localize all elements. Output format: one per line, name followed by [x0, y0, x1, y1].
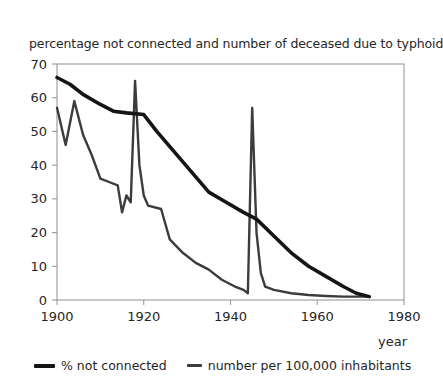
- x-tick-label: 1940: [214, 309, 247, 324]
- y-tick-label: 30: [30, 191, 47, 206]
- legend-item-deaths-per-100k: number per 100,000 inhabitants: [187, 358, 411, 373]
- data-series-group: [57, 77, 369, 296]
- series-line: [57, 81, 369, 297]
- x-axis-tick-labels: 19001920194019601980: [40, 309, 420, 324]
- series-line: [57, 77, 369, 296]
- y-tick-label: 70: [30, 57, 47, 72]
- legend-label-deaths-per-100k: number per 100,000 inhabitants: [208, 358, 411, 373]
- y-tick-label: 0: [39, 293, 47, 308]
- chart-legend: % not connected number per 100,000 inhab…: [34, 358, 424, 373]
- y-tick-label: 60: [30, 90, 47, 105]
- axes-group: [52, 64, 404, 305]
- x-tick-label: 1900: [40, 309, 73, 324]
- x-tick-label: 1980: [387, 309, 420, 324]
- x-tick-label: 1920: [127, 309, 160, 324]
- y-tick-label: 50: [30, 124, 47, 139]
- legend-line-icon-not-connected: [34, 364, 55, 368]
- legend-line-icon-deaths-per-100k: [187, 364, 202, 367]
- x-tick-label: 1960: [301, 309, 334, 324]
- legend-label-not-connected: % not connected: [61, 358, 167, 373]
- legend-item-not-connected: % not connected: [34, 358, 167, 373]
- y-tick-label: 20: [30, 225, 47, 240]
- x-axis-title: year: [378, 334, 407, 349]
- y-tick-label: 40: [30, 158, 47, 173]
- y-axis-tick-labels: 010203040506070: [30, 57, 47, 308]
- y-tick-label: 10: [30, 259, 47, 274]
